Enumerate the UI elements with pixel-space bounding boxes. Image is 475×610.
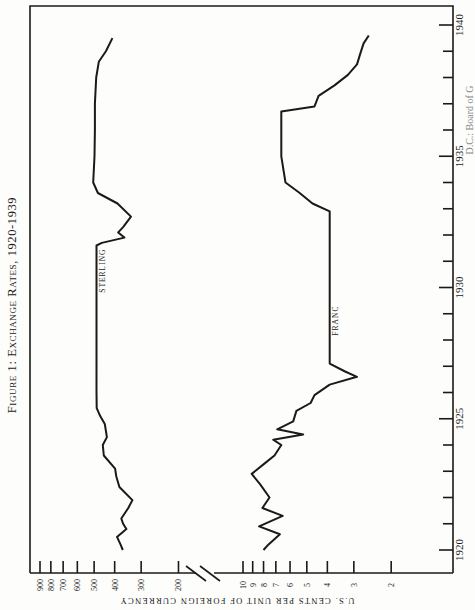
year-tick-label: 1935 bbox=[453, 145, 465, 168]
value-axis: 9008007006005004003002001098765432 bbox=[36, 561, 396, 591]
sterling-line bbox=[93, 38, 132, 550]
value-tick-label: 800 bbox=[47, 579, 56, 591]
value-tick-label: 2 bbox=[387, 583, 396, 587]
value-tick-label: 900 bbox=[36, 579, 45, 591]
year-tick-label: 1925 bbox=[453, 407, 465, 430]
value-tick-label: 9 bbox=[249, 583, 258, 587]
plot-frame bbox=[30, 6, 453, 581]
year-axis: 19201925193019351940 bbox=[439, 14, 465, 562]
value-tick-label: 10 bbox=[239, 581, 248, 589]
frame-border bbox=[30, 6, 453, 573]
exchange-rate-chart: 19201925193019351940 9008007006005004003… bbox=[0, 0, 475, 610]
franc-label: FRANC bbox=[331, 306, 340, 336]
year-tick-label: 1930 bbox=[453, 276, 465, 299]
value-tick-label: 400 bbox=[111, 579, 120, 591]
value-tick-label: 4 bbox=[323, 583, 332, 587]
value-tick-label: 200 bbox=[174, 579, 183, 591]
value-tick-label: 8 bbox=[260, 583, 269, 587]
value-tick-label: 500 bbox=[90, 579, 99, 591]
value-tick-label: 6 bbox=[286, 583, 295, 587]
value-tick-label: 300 bbox=[137, 579, 146, 591]
value-tick-label: 5 bbox=[303, 583, 312, 587]
sterling-label: STERLING bbox=[98, 249, 107, 293]
data-lines: STERLINGFRANC bbox=[93, 36, 369, 551]
value-tick-label: 7 bbox=[272, 583, 281, 587]
year-tick-label: 1920 bbox=[453, 539, 465, 562]
franc-line bbox=[252, 36, 369, 551]
value-tick-label: 700 bbox=[59, 579, 68, 591]
value-tick-label: 3 bbox=[350, 583, 359, 587]
value-tick-label: 600 bbox=[73, 579, 82, 591]
year-tick-label: 1940 bbox=[453, 14, 465, 37]
